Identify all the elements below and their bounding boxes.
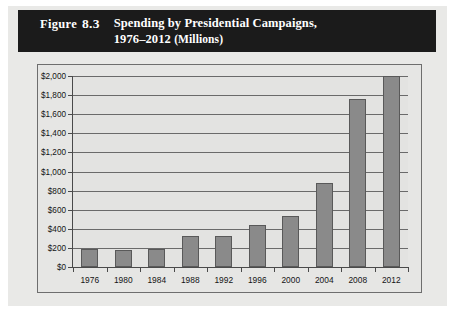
x-axis-label: 1996 (248, 275, 267, 285)
x-axis-tick (241, 267, 242, 272)
figure-title-inner: Figure8.3 Spending by Presidential Campa… (18, 15, 327, 47)
bar (383, 76, 400, 267)
figure-page: Figure8.3 Spending by Presidential Campa… (0, 0, 455, 320)
y-axis-label: $600 (48, 205, 66, 214)
y-axis-label: $800 (48, 186, 66, 195)
y-axis-tick (68, 133, 73, 134)
x-axis-tick (73, 267, 74, 272)
y-axis-label: $200 (48, 243, 66, 252)
y-axis-label: $1,200 (41, 148, 66, 157)
x-axis-tick (274, 267, 275, 272)
bar (349, 99, 366, 267)
y-axis-tick (68, 76, 73, 77)
figure-number: 8.3 (82, 16, 100, 31)
gridline (73, 95, 408, 96)
x-axis-tick (341, 267, 342, 272)
x-axis-label: 2008 (348, 275, 367, 285)
figure-title-line1: Spending by Presidential Campaigns, (114, 15, 317, 31)
x-axis-label: 2012 (382, 275, 401, 285)
x-axis-label: 1992 (214, 275, 233, 285)
gridline (73, 76, 408, 77)
x-axis-tick (408, 267, 409, 272)
x-axis-label: 1976 (80, 275, 99, 285)
x-axis-label: 2000 (281, 275, 300, 285)
x-axis-tick (140, 267, 141, 272)
figure-title-line2: 1976–2012 (Millions) (114, 31, 317, 47)
chart-frame: $0$200$400$600$800$1,000$1,200$1,400$1,6… (37, 64, 422, 293)
y-axis-label: $1,400 (41, 129, 66, 138)
bar (282, 216, 299, 267)
x-axis-tick (308, 267, 309, 272)
y-axis-label: $1,600 (41, 110, 66, 119)
y-axis-label: $400 (48, 224, 66, 233)
y-axis-tick (68, 95, 73, 96)
y-axis-tick (68, 210, 73, 211)
bar (215, 236, 232, 268)
y-axis-tick (68, 172, 73, 173)
x-axis-tick (174, 267, 175, 272)
y-axis-tick (68, 229, 73, 230)
figure-label: Figure8.3 (40, 15, 100, 32)
x-axis-label: 1984 (147, 275, 166, 285)
y-axis-tick (68, 114, 73, 115)
figure-title-years: 1976–2012 (114, 32, 171, 46)
bar (81, 249, 98, 267)
y-axis-label: $0 (57, 263, 66, 272)
x-axis-label: 2004 (315, 275, 334, 285)
bar (316, 183, 333, 267)
y-axis-label: $1,000 (41, 167, 66, 176)
x-axis-label: 1988 (181, 275, 200, 285)
figure-title-bar: Figure8.3 Spending by Presidential Campa… (18, 10, 436, 52)
x-axis-tick (107, 267, 108, 272)
figure-label-text: Figure (40, 17, 77, 31)
bar (249, 225, 266, 267)
x-axis-label: 1980 (114, 275, 133, 285)
y-axis-tick (68, 191, 73, 192)
y-axis-tick (68, 152, 73, 153)
figure-title: Spending by Presidential Campaigns, 1976… (114, 15, 317, 47)
x-axis-tick (375, 267, 376, 272)
bar (182, 236, 199, 267)
bar (115, 250, 132, 267)
y-axis-tick (68, 248, 73, 249)
bar (148, 249, 165, 267)
y-axis-label: $1,800 (41, 91, 66, 100)
x-axis-tick (207, 267, 208, 272)
y-axis-label: $2,000 (41, 72, 66, 81)
figure-title-unit: (Millions) (174, 33, 223, 45)
plot-area: $0$200$400$600$800$1,000$1,200$1,400$1,6… (72, 76, 408, 268)
